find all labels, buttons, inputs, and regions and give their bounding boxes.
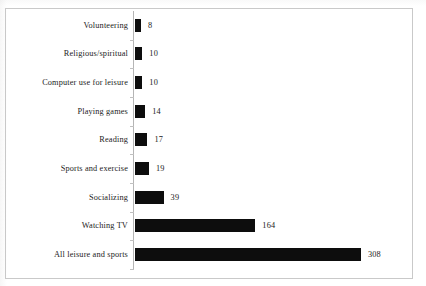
bar-value-label: 164 — [262, 221, 275, 230]
bar-category-label: Socializing — [0, 183, 128, 212]
bar — [135, 133, 147, 146]
bar-value-label: 39 — [171, 193, 180, 202]
bar-category-label: Volunteering — [0, 11, 128, 40]
bar-category-label: Reading — [0, 126, 128, 155]
bar-value-label: 8 — [148, 21, 152, 30]
bar-value-label: 19 — [156, 164, 165, 173]
bar-category-label: Religious/spiritual — [0, 40, 128, 69]
axis-tick — [130, 240, 134, 241]
bar-category-label: All leisure and sports — [0, 240, 128, 269]
bar-row: Sports and exercise19 — [0, 154, 426, 183]
bar-and-value: 8 — [135, 11, 152, 40]
axis-tick — [130, 40, 134, 41]
axis-tick — [130, 212, 134, 213]
axis-tick — [130, 126, 134, 127]
bar-value-label: 17 — [154, 135, 163, 144]
bar — [135, 47, 142, 60]
bar — [135, 191, 164, 204]
bar — [135, 219, 255, 232]
bar-and-value: 39 — [135, 183, 179, 212]
axis-tick — [130, 97, 134, 98]
bar-value-label: 308 — [368, 250, 381, 259]
bar-category-label: Sports and exercise — [0, 154, 128, 183]
bar-value-label: 10 — [149, 49, 158, 58]
bar-row: Volunteering8 — [0, 11, 426, 40]
bar — [135, 19, 141, 32]
axis-tick — [130, 68, 134, 69]
bar-row: Watching TV164 — [0, 212, 426, 241]
axis-tick — [130, 183, 134, 184]
bar — [135, 105, 145, 118]
bar-category-label: Computer use for leisure — [0, 68, 128, 97]
bar-value-label: 14 — [152, 107, 161, 116]
bar-and-value: 10 — [135, 40, 158, 69]
bar-chart-plot-area: Volunteering8Religious/spiritual10Comput… — [0, 0, 426, 286]
bar-row: Reading17 — [0, 126, 426, 155]
bar-row: Computer use for leisure10 — [0, 68, 426, 97]
bar-and-value: 14 — [135, 97, 161, 126]
bar-and-value: 10 — [135, 68, 158, 97]
bar-row: Playing games14 — [0, 97, 426, 126]
axis-tick — [130, 154, 134, 155]
bar — [135, 248, 361, 261]
bar-value-label: 10 — [149, 78, 158, 87]
bar-row: Religious/spiritual10 — [0, 40, 426, 69]
bar — [135, 76, 142, 89]
bar-and-value: 308 — [135, 240, 381, 269]
bar-category-label: Watching TV — [0, 212, 128, 241]
axis-tick — [130, 269, 134, 270]
bar — [135, 162, 149, 175]
bar-category-label: Playing games — [0, 97, 128, 126]
bar-and-value: 17 — [135, 126, 163, 155]
bar-row: Socializing39 — [0, 183, 426, 212]
bar-and-value: 19 — [135, 154, 165, 183]
bar-row: All leisure and sports308 — [0, 240, 426, 269]
bar-and-value: 164 — [135, 212, 275, 241]
